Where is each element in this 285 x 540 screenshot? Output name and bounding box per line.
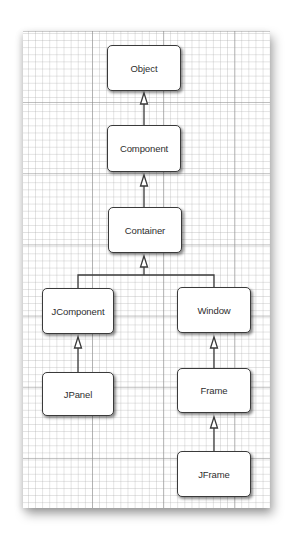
class-node-frame: Frame xyxy=(177,368,251,413)
class-node-jcomponent: JComponent xyxy=(42,288,114,334)
class-node-object: Object xyxy=(107,45,181,91)
class-label: JPanel xyxy=(64,389,92,400)
class-label: Window xyxy=(197,305,230,316)
class-node-jframe: JFrame xyxy=(177,451,251,497)
class-node-container: Container xyxy=(108,207,182,253)
class-label: JFrame xyxy=(198,469,230,480)
class-label: Component xyxy=(120,143,168,154)
class-node-component: Component xyxy=(107,125,181,172)
class-label: JComponent xyxy=(52,306,105,317)
grid-paper-background xyxy=(23,31,270,508)
class-node-jpanel: JPanel xyxy=(42,372,114,416)
class-label: Frame xyxy=(201,385,228,396)
class-label: Object xyxy=(131,63,158,74)
class-label: Container xyxy=(125,225,165,236)
class-node-window: Window xyxy=(177,287,251,333)
